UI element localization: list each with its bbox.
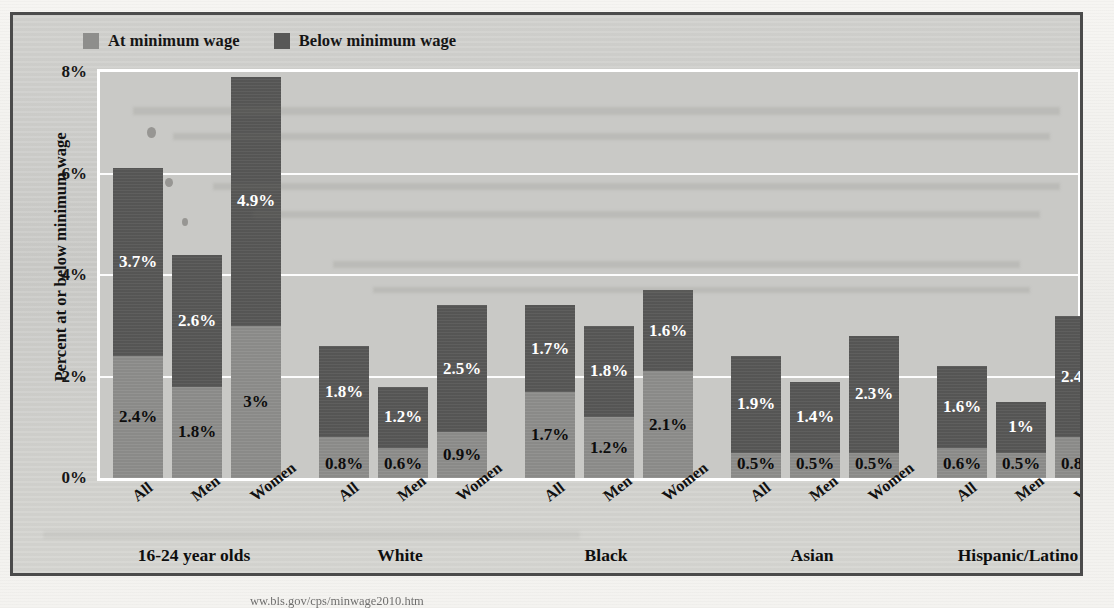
bar-value-label: 0.5%: [1002, 454, 1040, 474]
legend-item-below-minimum-wage: Below minimum wage: [274, 31, 457, 51]
bar-value-label: 0.6%: [943, 454, 981, 474]
stacked-bar: 1.8%1.2%: [584, 326, 634, 478]
bar-segment-at-minimum-wage: 0.5%: [731, 453, 781, 478]
y-tick-label: 8%: [62, 62, 88, 82]
x-tick-label: All: [541, 478, 568, 505]
y-tick-label: 0%: [62, 468, 88, 488]
bar-value-label: 1.6%: [649, 321, 687, 341]
bar-segment-below-minimum-wage: 1.4%: [790, 382, 840, 453]
y-tick-label: 2%: [62, 367, 88, 387]
bar-value-label: 1.2%: [384, 407, 422, 427]
bar-segment-below-minimum-wage: 1.9%: [731, 356, 781, 452]
legend-swatch-at-minimum-wage: [83, 33, 99, 49]
bar-value-label: 2.4%: [119, 407, 157, 427]
bar-value-label: 1.4%: [796, 407, 834, 427]
bars-layer: 3.7%2.4%2.6%1.8%4.9%3%1.8%0.8%1.2%0.6%2.…: [100, 72, 1078, 478]
bar-value-label: 2.6%: [178, 311, 216, 331]
bar-value-label: 0.8%: [1061, 454, 1083, 474]
bar-value-label: 1.9%: [737, 394, 775, 414]
x-tick-label: All: [129, 478, 156, 505]
legend-label-at-minimum-wage: At minimum wage: [108, 31, 240, 51]
stacked-bar: 1.6%0.6%: [937, 366, 987, 478]
stacked-bar: 4.9%3%: [231, 77, 281, 478]
y-axis-ticks: 0%2%4%6%8%: [13, 69, 97, 481]
stacked-bar: 1%0.5%: [996, 402, 1046, 478]
stacked-bar: 1.4%0.5%: [790, 382, 840, 478]
y-tick-label: 6%: [62, 164, 88, 184]
stacked-bar: 1.7%1.7%: [525, 305, 575, 478]
bar-value-label: 2.3%: [855, 384, 893, 404]
bar-value-label: 4.9%: [237, 191, 275, 211]
stacked-bar: 1.6%2.1%: [643, 290, 693, 478]
bar-segment-below-minimum-wage: 1.7%: [525, 305, 575, 391]
stacked-bar: 2.4%0.8%: [1055, 316, 1083, 478]
bar-value-label: 1.7%: [531, 339, 569, 359]
bar-value-label: 0.6%: [384, 454, 422, 474]
bar-value-label: 0.9%: [443, 445, 481, 465]
bar-value-label: 0.5%: [855, 454, 893, 474]
group-label: White: [377, 545, 423, 566]
stacked-bar: 2.3%0.5%: [849, 336, 899, 478]
bar-value-label: 2.4%: [1061, 367, 1083, 387]
chart-figure: At minimum wage Below minimum wage Perce…: [10, 12, 1083, 576]
chart-legend: At minimum wage Below minimum wage: [83, 31, 456, 51]
bar-segment-at-minimum-wage: 2.4%: [113, 356, 163, 478]
x-tick-label: All: [747, 478, 774, 505]
x-tick-label: All: [953, 478, 980, 505]
stacked-bar: 1.9%0.5%: [731, 356, 781, 478]
bar-value-label: 1.7%: [531, 425, 569, 445]
legend-label-below-minimum-wage: Below minimum wage: [299, 31, 457, 51]
stacked-bar: 1.2%0.6%: [378, 387, 428, 478]
bar-segment-below-minimum-wage: 4.9%: [231, 77, 281, 326]
bar-segment-at-minimum-wage: 0.8%: [319, 437, 369, 478]
group-label: 16-24 year olds: [138, 545, 250, 566]
group-labels: 16-24 year oldsWhiteBlackAsianHispanic/L…: [97, 545, 1081, 575]
bar-value-label: 0.8%: [325, 454, 363, 474]
bar-segment-at-minimum-wage: 3%: [231, 326, 281, 478]
bar-value-label: 1.2%: [590, 438, 628, 458]
plot-area: 3.7%2.4%2.6%1.8%4.9%3%1.8%0.8%1.2%0.6%2.…: [97, 69, 1081, 481]
bar-value-label: 0.5%: [737, 454, 775, 474]
bar-segment-below-minimum-wage: 1.6%: [937, 366, 987, 447]
source-caption-text: ww.bls.gov/cps/minwage2010.htm: [250, 597, 1110, 608]
bar-value-label: 1.8%: [178, 422, 216, 442]
bar-value-label: 1.8%: [590, 361, 628, 381]
stacked-bar: 2.6%1.8%: [172, 255, 222, 478]
bar-value-label: 1.8%: [325, 382, 363, 402]
bar-segment-below-minimum-wage: 1.8%: [584, 326, 634, 417]
bar-value-label: 1.6%: [943, 397, 981, 417]
bar-segment-below-minimum-wage: 3.7%: [113, 168, 163, 356]
legend-item-at-minimum-wage: At minimum wage: [83, 31, 240, 51]
bar-segment-at-minimum-wage: 1.8%: [172, 387, 222, 478]
bar-segment-below-minimum-wage: 2.3%: [849, 336, 899, 453]
bar-segment-below-minimum-wage: 2.4%: [1055, 316, 1083, 438]
x-tick-label: All: [335, 478, 362, 505]
bar-segment-below-minimum-wage: 1.2%: [378, 387, 428, 448]
stacked-bar: 2.5%0.9%: [437, 305, 487, 478]
bar-value-label: 3.7%: [119, 252, 157, 272]
bar-segment-below-minimum-wage: 2.6%: [172, 255, 222, 387]
source-caption: ww.bls.gov/cps/minwage2010.htm: [250, 597, 1110, 608]
bar-value-label: 2.1%: [649, 415, 687, 435]
plot-inner: 3.7%2.4%2.6%1.8%4.9%3%1.8%0.8%1.2%0.6%2.…: [100, 72, 1078, 478]
legend-swatch-below-minimum-wage: [274, 33, 290, 49]
category-labels: AllMenWomenAllMenWomenAllMenWomenAllMenW…: [97, 485, 1081, 545]
figure-page: At minimum wage Below minimum wage Perce…: [0, 0, 1114, 608]
bar-segment-below-minimum-wage: 1.8%: [319, 346, 369, 437]
bar-segment-at-minimum-wage: 1.2%: [584, 417, 634, 478]
bar-segment-below-minimum-wage: 1%: [996, 402, 1046, 453]
bar-value-label: 1%: [1008, 417, 1034, 437]
group-label: Black: [585, 545, 628, 566]
bar-value-label: 2.5%: [443, 359, 481, 379]
group-label: Asian: [791, 545, 834, 566]
y-tick-label: 4%: [62, 265, 88, 285]
bar-value-label: 3%: [243, 392, 269, 412]
bar-value-label: 0.5%: [796, 454, 834, 474]
bar-segment-below-minimum-wage: 2.5%: [437, 305, 487, 432]
bar-segment-below-minimum-wage: 1.6%: [643, 290, 693, 371]
bar-segment-at-minimum-wage: 0.6%: [937, 448, 987, 478]
stacked-bar: 3.7%2.4%: [113, 168, 163, 478]
bar-segment-at-minimum-wage: 2.1%: [643, 371, 693, 478]
stacked-bar: 1.8%0.8%: [319, 346, 369, 478]
group-label: Hispanic/Latino: [958, 545, 1079, 566]
